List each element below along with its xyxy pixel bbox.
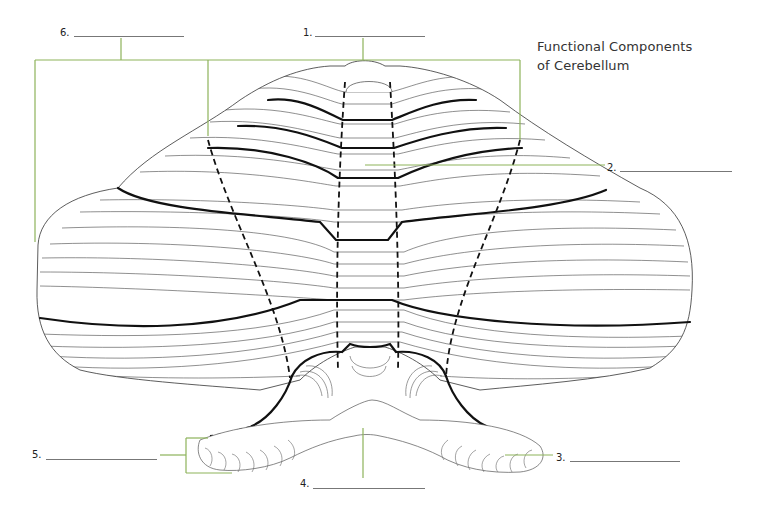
flocculonodular-lobe [198,400,543,472]
label-3-number: 3. [556,452,566,464]
title-line-1: Functional Components [537,37,692,56]
label-2-number: 2. [607,162,617,174]
label-6-answer-blank[interactable] [74,36,184,37]
label-1-number: 1. [303,27,313,39]
title-line-2: of Cerebellum [537,56,692,75]
cerebellum-diagram [0,0,761,515]
label-4-number: 4. [300,478,310,490]
label-1-answer-blank[interactable] [315,36,425,37]
label-2-answer-blank[interactable] [620,171,732,172]
label-5-answer-blank[interactable] [46,459,157,460]
label-3-answer-blank[interactable] [570,461,680,462]
cerebellum-body [37,61,692,390]
label-5-number: 5. [32,449,42,461]
label-6-number: 6. [60,27,70,39]
label-4-answer-blank[interactable] [313,488,425,489]
diagram-title: Functional Components of Cerebellum [537,37,692,75]
